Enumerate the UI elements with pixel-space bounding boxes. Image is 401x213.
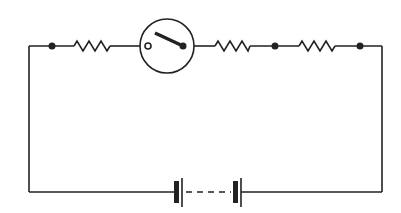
junction-dot-icon	[49, 43, 56, 50]
resistor-icon	[299, 41, 335, 51]
circuit-diagram	[0, 0, 401, 213]
switch-contact-icon	[145, 43, 151, 49]
switch-lever-icon	[155, 33, 183, 46]
switch-pivot-icon	[180, 43, 187, 50]
resistor-icon	[215, 41, 250, 51]
battery-thick-plate-icon	[233, 181, 238, 203]
junction-dot-icon	[272, 43, 279, 50]
battery-thick-plate-icon	[174, 181, 179, 203]
junction-dot-icon	[357, 43, 364, 50]
resistor-icon	[74, 41, 110, 51]
